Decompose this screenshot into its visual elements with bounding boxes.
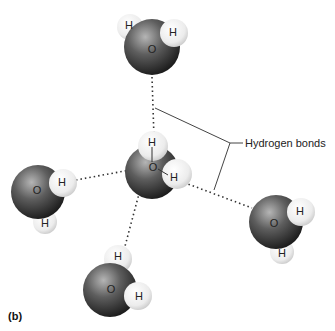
oxygen-label: O xyxy=(33,184,42,196)
water-molecule-center: H H O xyxy=(125,131,192,199)
hydrogen-label: H xyxy=(114,250,122,262)
water-molecule-top: H H O xyxy=(117,14,188,75)
oxygen-label: O xyxy=(270,217,279,229)
panel-label: (b) xyxy=(8,310,22,322)
hydrogen-label: H xyxy=(170,171,178,183)
hydrogen-label: H xyxy=(58,176,66,188)
hydrogen-label: H xyxy=(169,26,177,38)
hydrogen-label: H xyxy=(125,19,133,31)
hydrogen-label: H xyxy=(148,136,156,148)
water-hydrogen-bond-diagram: H H O H H O H H O H H O H H O xyxy=(0,0,335,331)
oxygen-label: O xyxy=(148,43,157,55)
hydrogen-label: H xyxy=(135,290,143,302)
h-bond-left xyxy=(76,170,130,180)
oxygen-label: O xyxy=(149,161,158,173)
water-molecule-left: H H O xyxy=(11,165,77,234)
hydrogen-label: H xyxy=(296,205,304,217)
h-bond-bottom xyxy=(124,190,140,250)
hydrogen-bonds-label: Hydrogen bonds xyxy=(245,137,326,149)
water-molecule-right: H H O xyxy=(249,195,315,264)
oxygen-label: O xyxy=(107,283,116,295)
water-molecule-bottom: H H O xyxy=(83,245,152,317)
hydrogen-label: H xyxy=(278,247,286,259)
h-bond-top xyxy=(152,77,154,138)
hydrogen-label: H xyxy=(41,217,49,229)
